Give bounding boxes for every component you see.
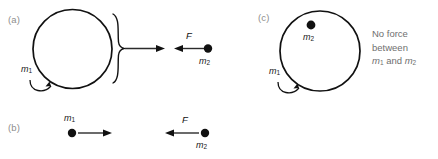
point-mass-label-m1-b: m1 bbox=[64, 113, 75, 123]
point-mass-label-m2-b: m2 bbox=[196, 140, 207, 150]
shell-mass-label-a: m1 bbox=[21, 64, 32, 74]
figure-vector-layer bbox=[0, 0, 438, 159]
panel-label-c: (c) bbox=[258, 12, 270, 23]
note-line-3: m1 and m2 bbox=[372, 54, 416, 70]
physics-figure: (a) m1 F m2 ( bbox=[0, 0, 438, 159]
force-arrow-shell-head-a bbox=[156, 45, 165, 52]
shell-circle-c bbox=[280, 11, 360, 91]
no-force-note: No force between m1 and m2 bbox=[372, 27, 416, 70]
force-arrow-m2-head-b bbox=[165, 130, 174, 137]
point-mass-m2-dot-c bbox=[307, 21, 316, 30]
note-line-2: between bbox=[372, 41, 416, 55]
force-label-a: F bbox=[186, 30, 192, 41]
force-arrow-m2-head-a bbox=[174, 45, 183, 52]
shell-circle-a bbox=[33, 10, 112, 89]
force-arrow-m1-head-b bbox=[103, 130, 112, 137]
note-line-1: No force bbox=[372, 27, 416, 41]
point-mass-label-a: m2 bbox=[199, 56, 210, 66]
point-mass-m1-dot-b bbox=[68, 129, 76, 137]
brace-a bbox=[113, 14, 124, 83]
force-label-b: F bbox=[182, 114, 188, 125]
shell-mass-label-c: m1 bbox=[269, 66, 280, 76]
point-mass-m2-dot-b bbox=[201, 129, 209, 137]
point-mass-m2-dot-a bbox=[204, 44, 212, 52]
panel-label-b: (b) bbox=[8, 122, 20, 133]
point-mass-label-c: m2 bbox=[303, 32, 314, 42]
